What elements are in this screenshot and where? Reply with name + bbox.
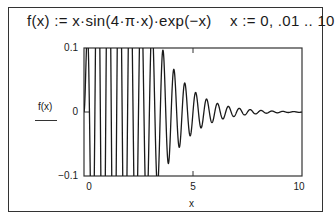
plot-canvas[interactable] — [0, 0, 329, 221]
